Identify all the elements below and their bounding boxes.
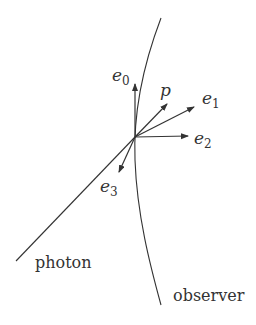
label-p: p bbox=[160, 80, 171, 100]
vector-e3-arrow bbox=[119, 137, 135, 172]
label-e1: e1 bbox=[202, 88, 220, 111]
label-e3: e3 bbox=[100, 176, 118, 199]
vector-e2-arrow bbox=[135, 136, 188, 137]
label-e0: e0 bbox=[112, 65, 130, 88]
observer-frame-diagram: e0 p e1 e2 e3 photon observer bbox=[0, 0, 256, 325]
vector-p-arrow bbox=[135, 104, 167, 137]
photon-worldline bbox=[16, 137, 135, 261]
label-e2: e2 bbox=[194, 128, 212, 151]
vector-e1-arrow bbox=[135, 107, 194, 137]
label-photon: photon bbox=[35, 253, 92, 272]
observer-worldline bbox=[135, 18, 161, 305]
label-observer: observer bbox=[173, 286, 245, 305]
